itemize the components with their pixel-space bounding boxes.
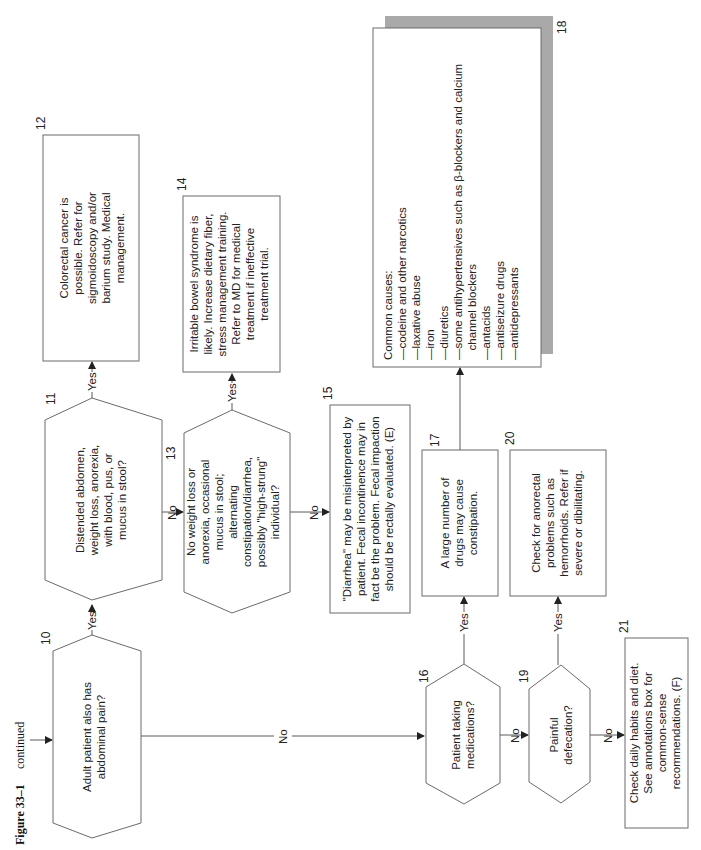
edge-label-yes: Yes [458,613,470,632]
svg-text:Patient taking: Patient taking [450,700,462,770]
node-12-number: 12 [34,116,48,130]
svg-text:fact be the problem. Fecal im: fact be the problem. Fecal impaction [369,416,381,601]
node-21-number: 21 [617,619,631,633]
node-18-number: 18 [555,20,569,34]
svg-text:alternating: alternating [227,485,239,539]
svg-text:stress management training.: stress management training. [216,211,228,356]
svg-text:"Diarrhea" may be misinterpret: "Diarrhea" may be misinterpreted by [341,416,353,601]
svg-text:problems such as: problems such as [544,478,556,568]
svg-text:weight loss, anorexia,: weight loss, anorexia, [88,445,100,557]
svg-text:recommendations. (F): recommendations. (F) [670,677,682,790]
svg-text:abdominal pain?: abdominal pain? [95,695,107,779]
svg-text:possibly "high-strung": possibly "high-strung" [255,457,267,567]
svg-text:Painful: Painful [548,717,560,752]
svg-text:No weight loss or: No weight loss or [185,468,197,556]
svg-text:treatment if ineffective: treatment if ineffective [244,228,256,340]
svg-text:sigmoidoscopy and/or: sigmoidoscopy and/or [86,192,98,304]
svg-text:Irritable bowel syndrome is: Irritable bowel syndrome is [188,215,200,352]
svg-text:continued: continued [13,722,27,769]
svg-text:hemorrhoids. Refer if: hemorrhoids. Refer if [558,469,570,577]
edge-label-no: No [509,728,521,743]
svg-text:severe or dibilitating.: severe or dibilitating. [572,470,584,575]
svg-text:—codeine and other narcotics: —codeine and other narcotics [396,207,408,360]
svg-text:—antacids: —antacids [480,305,492,360]
svg-text:mucus in stool;: mucus in stool; [213,474,225,551]
svg-text:channel blockers: channel blockers [466,264,478,360]
svg-text:defecation?: defecation? [562,705,574,764]
svg-text:—diuretics: —diuretics [438,305,450,360]
svg-text:constipation/diarrhea,: constipation/diarrhea, [241,457,253,567]
node-16-decision [426,664,500,804]
edge-label-no: No [602,728,614,743]
svg-text:Figure 33–1: Figure 33–1 [13,784,27,845]
svg-text:possible. Refer for: possible. Refer for [72,201,84,294]
edge-label-no: No [277,729,289,744]
edge-label-no: No [166,505,178,520]
svg-text:drugs may cause: drugs may cause [453,479,465,567]
svg-text:Adult patient also has: Adult patient also has [81,682,93,792]
edge-label-yes: Yes [226,383,238,402]
svg-text:common-sense: common-sense [656,694,668,773]
svg-text:barium study. Medical: barium study. Medical [100,193,112,304]
svg-text:constipation.: constipation. [467,491,479,556]
svg-text:Refer to MD for medical: Refer to MD for medical [230,223,242,344]
svg-text:A large number of: A large number of [439,477,451,569]
node-19-number: 19 [517,669,531,683]
svg-text:management.: management. [114,213,126,283]
svg-text:treatment trial.: treatment trial. [258,247,270,321]
edge-label-no: No [308,505,320,520]
svg-text:—some antihypertensives such a: —some antihypertensives such as β-blocke… [452,64,464,360]
svg-text:likely. Increase dietary fiber: likely. Increase dietary fiber, [202,213,214,354]
svg-text:individual?: individual? [269,485,281,539]
edge-label-yes: Yes [552,613,564,632]
node-15-number: 15 [321,386,335,400]
svg-text:Distended abdomen,: Distended abdomen, [74,447,86,553]
svg-text:mucus in stool?: mucus in stool? [116,460,128,540]
node-11-number: 11 [44,392,58,405]
svg-text:medications?: medications? [464,701,476,769]
svg-text:See annotations box for: See annotations box for [642,672,654,794]
node-10-number: 10 [39,631,53,645]
svg-text:—antidepressants: —antidepressants [508,267,520,360]
svg-text:Check daily habits and diet.: Check daily habits and diet. [628,663,640,804]
node-13-number: 13 [164,446,178,460]
node-14-number: 14 [175,177,189,191]
svg-text:—laxative abuse: —laxative abuse [410,275,422,360]
svg-text:Colorectal cancer is: Colorectal cancer is [58,197,70,298]
node-20-number: 20 [503,431,517,445]
flowchart: Figure 33–1 continued 10 Adult patient a… [0,0,701,850]
svg-text:Check for anorectal: Check for anorectal [530,473,542,573]
node-17-number: 17 [428,433,442,447]
svg-text:—iron: —iron [424,329,436,360]
svg-text:—antiseizure drugs: —antiseizure drugs [494,261,506,360]
edge-label-yes: Yes [86,611,98,630]
edge-label-yes: Yes [86,372,98,391]
svg-text:with blood, pus, or: with blood, pus, or [102,453,114,548]
svg-text:Common causes:: Common causes: [382,271,394,360]
figure-caption: Figure 33–1 continued [13,722,27,845]
svg-text:anorexia, occasional: anorexia, occasional [199,460,211,565]
node-16-number: 16 [417,669,431,683]
svg-text:patient. Fecal incontinence ma: patient. Fecal incontinence may in [355,422,367,596]
svg-text:should be rectally evaluated.: should be rectally evaluated. (E) [383,427,395,591]
